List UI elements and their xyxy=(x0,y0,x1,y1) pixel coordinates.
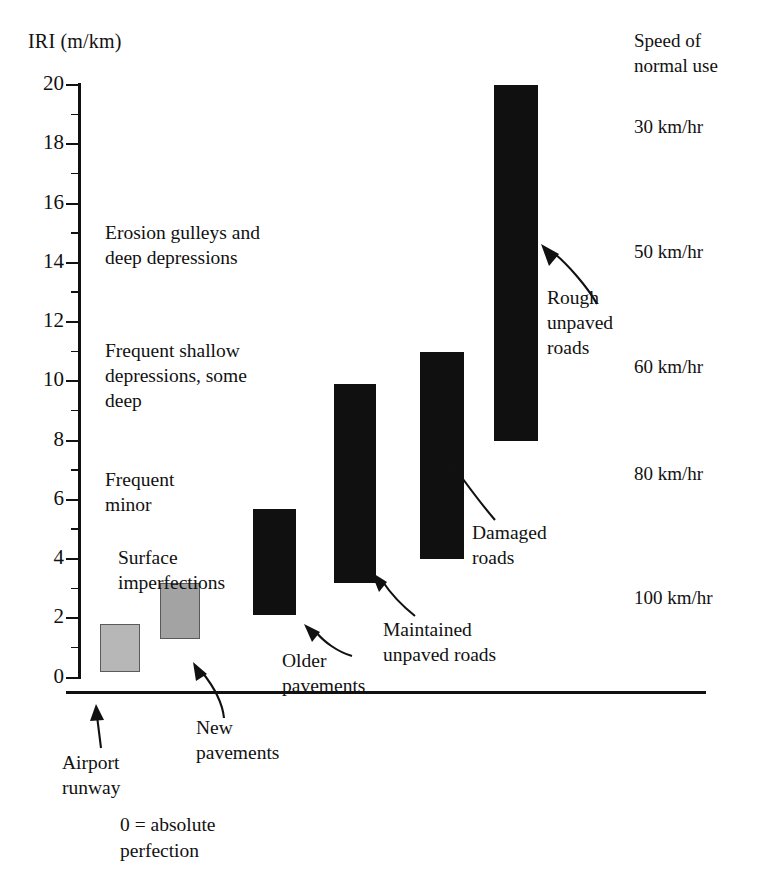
y-tick-label-6: 6 xyxy=(20,486,64,511)
chart-canvas: IRI (m/km) Speed of normal use 024681012… xyxy=(0,0,766,887)
callout-maintained-line-1: Maintained xyxy=(383,617,496,642)
callout-damaged-line-2: roads xyxy=(472,545,547,570)
y-tick-minor-1 xyxy=(71,647,79,649)
new-pavements-arrow-icon xyxy=(180,640,240,720)
footnote-line-2: perfection xyxy=(120,838,215,864)
y-tick-minor-13 xyxy=(71,291,79,293)
condition-minor-line-1: Frequent xyxy=(105,467,174,492)
speed-label-100kmh: 100 km/hr xyxy=(634,587,713,609)
callout-airport-line-2: runway xyxy=(62,775,120,800)
y-tick-minor-7 xyxy=(71,469,79,471)
speed-label-50kmh: 50 km/hr xyxy=(634,241,703,263)
y-tick-minor-11 xyxy=(71,351,79,353)
airport-runway-arrow-icon xyxy=(88,700,128,750)
condition-label-surface-imperfections: Surface imperfections xyxy=(118,545,225,595)
footnote-line-1: 0 = absolute xyxy=(120,812,215,838)
maintained-unpaved-arrow-icon xyxy=(355,560,425,620)
condition-surface-line-1: Surface xyxy=(118,545,225,570)
callout-older-line-1: Older xyxy=(282,648,365,673)
y-tick-label-0: 0 xyxy=(20,664,64,689)
y-tick-minor-3 xyxy=(71,588,79,590)
bar-airport-runway xyxy=(100,624,140,671)
callout-older-pavements: Older pavements xyxy=(282,648,365,698)
callout-damaged-roads: Damaged roads xyxy=(472,520,547,570)
damaged-roads-arrow-icon xyxy=(425,448,505,523)
bar-older-pavements xyxy=(253,509,296,616)
callout-rough-line-3: roads xyxy=(547,335,613,360)
y-tick-major-18 xyxy=(66,143,79,145)
callout-airport-line-1: Airport xyxy=(62,750,120,775)
callout-rough-unpaved-roads: Rough unpaved roads xyxy=(547,285,613,360)
y-tick-label-18: 18 xyxy=(20,130,64,155)
callout-airport-runway: Airport runway xyxy=(62,750,120,800)
condition-surface-line-2: imperfections xyxy=(118,570,225,595)
y-tick-major-16 xyxy=(66,203,79,205)
x-axis-line xyxy=(66,691,706,694)
callout-rough-line-1: Rough xyxy=(547,285,613,310)
callout-new-pavements: New pavements xyxy=(196,715,279,765)
y-tick-label-14: 14 xyxy=(20,249,64,274)
speed-label-60kmh: 60 km/hr xyxy=(634,356,703,378)
speed-header-line-1: Speed of xyxy=(634,28,718,53)
callout-new-line-2: pavements xyxy=(196,740,279,765)
y-tick-minor-19 xyxy=(71,114,79,116)
y-tick-minor-5 xyxy=(71,528,79,530)
y-tick-minor-17 xyxy=(71,173,79,175)
y-tick-major-14 xyxy=(66,262,79,264)
y-tick-major-6 xyxy=(66,499,79,501)
condition-label-shallow-depressions: Frequent shallow depressions, some deep xyxy=(105,338,247,413)
speed-label-30kmh: 30 km/hr xyxy=(634,116,703,138)
y-tick-label-20: 20 xyxy=(20,71,64,96)
footnote-zero-definition: 0 = absolute perfection xyxy=(120,812,215,864)
y-tick-label-10: 10 xyxy=(20,367,64,392)
y-tick-major-10 xyxy=(66,380,79,382)
callout-rough-line-2: unpaved xyxy=(547,310,613,335)
y-tick-major-0 xyxy=(66,677,79,679)
y-tick-label-8: 8 xyxy=(20,427,64,452)
y-tick-label-12: 12 xyxy=(20,308,64,333)
y-tick-major-8 xyxy=(66,440,79,442)
y-tick-minor-9 xyxy=(71,410,79,412)
bar-maintained-unpaved-roads xyxy=(334,384,376,582)
y-tick-major-20 xyxy=(66,84,79,86)
condition-minor-line-2: minor xyxy=(105,492,174,517)
y-tick-major-4 xyxy=(66,558,79,560)
y-tick-minor-15 xyxy=(71,232,79,234)
y-axis-title: IRI (m/km) xyxy=(28,30,122,53)
speed-header-line-2: normal use xyxy=(634,53,718,78)
y-tick-label-4: 4 xyxy=(20,545,64,570)
condition-erosion-line-1: Erosion gulleys and xyxy=(105,220,260,245)
speed-panel-header: Speed of normal use xyxy=(634,28,718,78)
callout-damaged-line-1: Damaged xyxy=(472,520,547,545)
condition-shallow-line-3: deep xyxy=(105,388,247,413)
condition-erosion-line-2: deep depressions xyxy=(105,245,260,270)
condition-shallow-line-2: depressions, some xyxy=(105,363,247,388)
condition-label-erosion: Erosion gulleys and deep depressions xyxy=(105,220,260,270)
speed-label-80kmh: 80 km/hr xyxy=(634,463,703,485)
callout-maintained-unpaved-roads: Maintained unpaved roads xyxy=(383,617,496,667)
callout-maintained-line-2: unpaved roads xyxy=(383,642,496,667)
y-tick-major-2 xyxy=(66,617,79,619)
y-tick-label-16: 16 xyxy=(20,190,64,215)
callout-new-line-1: New xyxy=(196,715,279,740)
y-tick-major-12 xyxy=(66,321,79,323)
condition-shallow-line-1: Frequent shallow xyxy=(105,338,247,363)
callout-older-line-2: pavements xyxy=(282,673,365,698)
condition-label-frequent-minor: Frequent minor xyxy=(105,467,174,517)
y-tick-label-2: 2 xyxy=(20,604,64,629)
